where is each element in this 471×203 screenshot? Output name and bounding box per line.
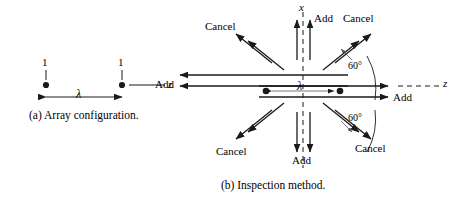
- panel-b-array-element-2: [337, 88, 344, 95]
- panel-b-x-label: x: [299, 2, 304, 13]
- cancel-lower-left-arrow-2: [248, 103, 284, 132]
- panel-b-array-element-1: [263, 88, 270, 95]
- cancel-lower-left-arrow-1: [236, 110, 272, 139]
- add-label-down: Add: [292, 155, 311, 166]
- panel-a: [43, 70, 165, 97]
- cancel-upper-right-arrow-2: [335, 34, 371, 63]
- add-label-left: Add: [155, 79, 174, 90]
- panel-a-element-2-label: 1: [118, 57, 124, 68]
- cancel-label-lower-left: Cancel: [216, 146, 247, 157]
- panel-a-caption: (a) Array configuration.: [29, 110, 139, 122]
- array-element-1: [43, 82, 49, 88]
- angle-label-upper: 60°: [348, 61, 362, 71]
- angle-label-lower: 60°: [348, 113, 362, 123]
- cancel-upper-left-arrow-1: [236, 34, 272, 63]
- panel-b-lambda-label: λ: [297, 80, 302, 92]
- cancel-label-upper-right: Cancel: [343, 13, 374, 24]
- add-label-right: Add: [393, 92, 412, 103]
- panel-a-lambda-label: λ: [76, 88, 81, 100]
- angle-arc-upper-right: [367, 56, 376, 100]
- panel-b-caption: (b) Inspection method.: [221, 180, 325, 192]
- panel-b-z-label: z: [443, 78, 447, 89]
- cancel-label-lower-right: Cancel: [355, 143, 386, 154]
- cancel-upper-left-arrow-2: [248, 41, 284, 70]
- cancel-label-upper-left: Cancel: [205, 21, 236, 32]
- array-element-2: [119, 82, 125, 88]
- add-label-up: Add: [314, 13, 333, 24]
- panel-a-element-1-label: 1: [42, 57, 48, 68]
